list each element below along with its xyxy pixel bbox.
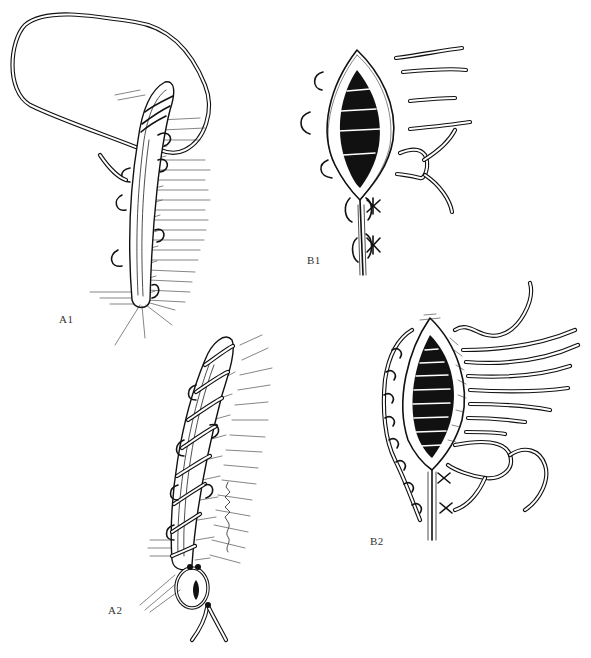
illustration-canvas xyxy=(0,0,591,658)
surgical-figure: A1 B1 A2 B2 xyxy=(0,0,591,658)
panel-label-b1: B1 xyxy=(307,254,321,266)
artist-signature xyxy=(225,482,230,552)
panel-a2-illustration xyxy=(140,335,272,640)
panel-b2-illustration xyxy=(384,283,578,540)
panel-b1-illustration xyxy=(301,48,470,275)
panel-label-a2: A2 xyxy=(108,604,122,616)
panel-label-a1: A1 xyxy=(59,313,73,325)
panel-label-b2: B2 xyxy=(370,535,384,547)
panel-a1-illustration xyxy=(13,14,211,345)
